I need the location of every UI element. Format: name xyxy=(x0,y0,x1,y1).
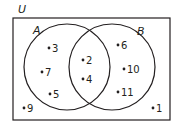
element-10: 10 xyxy=(127,64,140,75)
element-1: 1 xyxy=(156,103,162,114)
element-dot-10 xyxy=(123,68,126,71)
element-dot-9 xyxy=(23,107,26,110)
element-dot-1 xyxy=(152,107,155,110)
element-11: 11 xyxy=(121,87,134,98)
element-dot-2 xyxy=(82,59,85,62)
venn-diagram: U A B 3 7 5 2 4 6 10 11 9 1 xyxy=(0,0,180,126)
element-7: 7 xyxy=(45,67,51,78)
element-dot-5 xyxy=(49,93,52,96)
set-a-label: A xyxy=(32,24,41,37)
element-3: 3 xyxy=(52,43,58,54)
element-5: 5 xyxy=(53,89,59,100)
element-6: 6 xyxy=(121,40,127,51)
element-dot-7 xyxy=(41,71,44,74)
element-9: 9 xyxy=(27,103,33,114)
set-b-label: B xyxy=(137,25,145,38)
element-2: 2 xyxy=(86,55,92,66)
element-dot-3 xyxy=(48,47,51,50)
element-4: 4 xyxy=(86,74,92,85)
element-dot-11 xyxy=(117,91,120,94)
universe-label: U xyxy=(18,3,26,16)
element-dot-4 xyxy=(82,78,85,81)
element-dot-6 xyxy=(117,44,120,47)
